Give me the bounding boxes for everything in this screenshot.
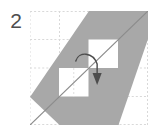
step-number-label: 2: [6, 8, 26, 34]
fold-diagram: [30, 11, 148, 125]
fold-diagram-svg: [30, 11, 148, 125]
diagram-canvas: 2: [0, 0, 153, 133]
